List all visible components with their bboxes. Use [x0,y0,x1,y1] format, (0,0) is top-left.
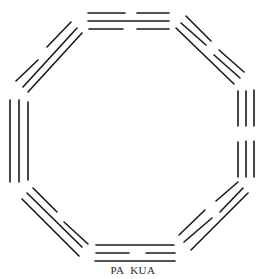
trigram-top-right [176,16,244,84]
trigram-line [27,193,82,247]
trigram-line [16,60,38,81]
trigram-line [179,210,205,235]
trigram-right [238,90,254,177]
trigram-line [191,193,248,250]
trigram-top [88,13,169,29]
trigram-line [186,16,211,41]
trigram-line [219,50,244,72]
pa-kua-octagon [0,0,266,279]
trigram-line [23,28,77,87]
trigram-bottom-left [22,188,88,256]
trigram-line [216,182,238,201]
trigram-line [184,218,212,242]
trigram-line [47,22,71,47]
trigram-line [214,55,240,78]
trigram-left [10,100,28,182]
trigram-top-left [16,22,82,92]
trigram-line [181,23,206,45]
diagram-caption: PA KUA [0,264,266,276]
trigram-bottom [95,245,175,261]
trigram-line [33,188,57,212]
trigram-bottom-right [179,182,248,250]
